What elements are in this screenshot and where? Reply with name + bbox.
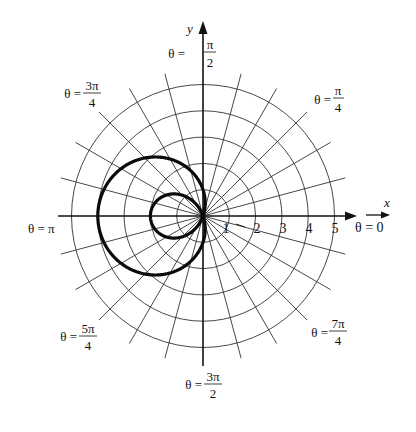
angle-label-3pi-4-den: 4 <box>89 95 96 110</box>
tick-label-5: 5 <box>332 221 339 236</box>
angle-label-7pi-4-num: 7π <box>331 316 345 331</box>
x-axis-label: x <box>383 195 390 210</box>
grid-ray-285deg <box>203 216 241 358</box>
angle-label-3pi-2-den: 2 <box>210 386 217 401</box>
angle-label-5pi-4-prefix: θ = <box>60 329 77 344</box>
angle-label-pi-4-den: 4 <box>335 100 342 115</box>
x-direction-arrow-icon <box>381 212 390 219</box>
tick-label-4: 4 <box>306 221 313 236</box>
angle-label-5pi-4-num: 5π <box>81 321 95 336</box>
grid-ray-135deg <box>99 112 203 216</box>
angle-label-pi-4-prefix: θ = <box>314 92 331 107</box>
angle-label-7pi-4-den: 4 <box>335 333 342 348</box>
grid-ray-300deg <box>203 216 277 344</box>
angle-label-3pi-4-prefix: θ = <box>64 86 81 101</box>
angle-label-pi: θ = π <box>28 221 55 236</box>
grid-ray-60deg <box>203 88 277 216</box>
axes <box>58 21 390 366</box>
grid-ray-150deg <box>75 142 203 216</box>
angle-label-3pi-4-num: 3π <box>85 78 99 93</box>
angle-label-pi-4-num: π <box>335 83 342 98</box>
y-axis-label: y <box>185 21 193 36</box>
tick-label-3: 3 <box>280 221 287 236</box>
grid-ray-120deg <box>129 88 203 216</box>
grid-ray-75deg <box>203 74 241 216</box>
grid-ray-45deg <box>203 112 307 216</box>
tick-label-2: 2 <box>254 221 261 236</box>
angle-label-pi-2-prefix: θ = <box>168 46 185 61</box>
angle-label-3pi-2-num: 3π <box>206 369 220 384</box>
grid-ray-195deg <box>61 216 203 254</box>
polar-chart: x y 1 2 3 4 5 θ = 0 θ = π 2 θ = 3π 4 θ =… <box>0 0 416 432</box>
grid-ray-225deg <box>99 216 203 320</box>
tick-label-1: 1 <box>223 221 230 236</box>
grid-ray-30deg <box>203 142 331 216</box>
angle-label-3pi-2-prefix: θ = <box>185 377 202 392</box>
grid-ray-240deg <box>129 216 203 344</box>
angle-label-7pi-4-prefix: θ = <box>311 325 328 340</box>
angle-label-pi-2-den: 2 <box>207 55 214 70</box>
angle-label-0: θ = 0 <box>355 220 384 235</box>
grid-ray-165deg <box>61 178 203 216</box>
angle-label-pi-2-num: π <box>207 37 214 52</box>
grid-ray-210deg <box>75 216 203 290</box>
angle-label-5pi-4-den: 4 <box>85 338 92 353</box>
grid-ray-15deg <box>203 178 345 216</box>
y-axis-arrow-icon <box>199 21 208 34</box>
radial-tick-labels: 1 2 3 4 5 <box>223 221 339 236</box>
